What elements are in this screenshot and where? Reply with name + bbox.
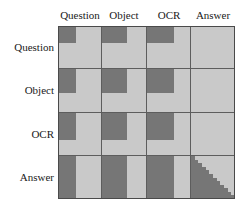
mask-block xyxy=(147,156,174,199)
matrix-cell-question-object xyxy=(102,26,147,69)
matrix-cell-question-question xyxy=(58,26,102,69)
column-header-question: Question xyxy=(58,6,102,24)
mask-block xyxy=(58,113,76,140)
matrix-cell-answer-answer xyxy=(191,156,235,199)
matrix-cell-answer-ocr xyxy=(147,156,191,199)
block-matrix-figure: Question Object OCR Answer Question Obje… xyxy=(0,0,248,213)
matrix-cell-ocr-answer xyxy=(191,113,235,156)
matrix-cell-question-answer xyxy=(191,26,235,69)
row-header-object: Object xyxy=(0,69,54,112)
row-header-question: Question xyxy=(0,26,54,69)
mask-block xyxy=(147,113,174,140)
row-header-ocr: OCR xyxy=(0,113,54,156)
mask-block xyxy=(102,69,127,93)
mask-block xyxy=(58,156,76,199)
matrix-grid xyxy=(58,26,235,199)
mask-block xyxy=(102,113,127,140)
matrix-cell-question-ocr xyxy=(147,26,191,69)
mask-block xyxy=(147,69,174,93)
mask-block xyxy=(102,156,127,199)
matrix-cell-object-object xyxy=(102,69,147,113)
matrix-cell-answer-question xyxy=(58,156,102,199)
matrix-cell-ocr-ocr xyxy=(147,113,191,156)
column-header-row: Question Object OCR Answer xyxy=(58,6,235,24)
matrix-cell-object-question xyxy=(58,69,102,113)
column-header-object: Object xyxy=(102,6,146,24)
matrix-cell-object-ocr xyxy=(147,69,191,113)
mask-block xyxy=(58,26,76,43)
matrix-cell-answer-object xyxy=(102,156,147,199)
matrix-cell-object-answer xyxy=(191,69,235,113)
column-header-answer: Answer xyxy=(191,6,235,24)
mask-block xyxy=(102,26,127,43)
row-header-answer: Answer xyxy=(0,156,54,199)
matrix-cell-ocr-object xyxy=(102,113,147,156)
matrix-cell-ocr-question xyxy=(58,113,102,156)
mask-block xyxy=(147,26,174,43)
causal-staircase xyxy=(191,156,235,199)
column-header-ocr: OCR xyxy=(147,6,191,24)
mask-block xyxy=(58,69,76,93)
row-header-column: Question Object OCR Answer xyxy=(0,26,56,199)
